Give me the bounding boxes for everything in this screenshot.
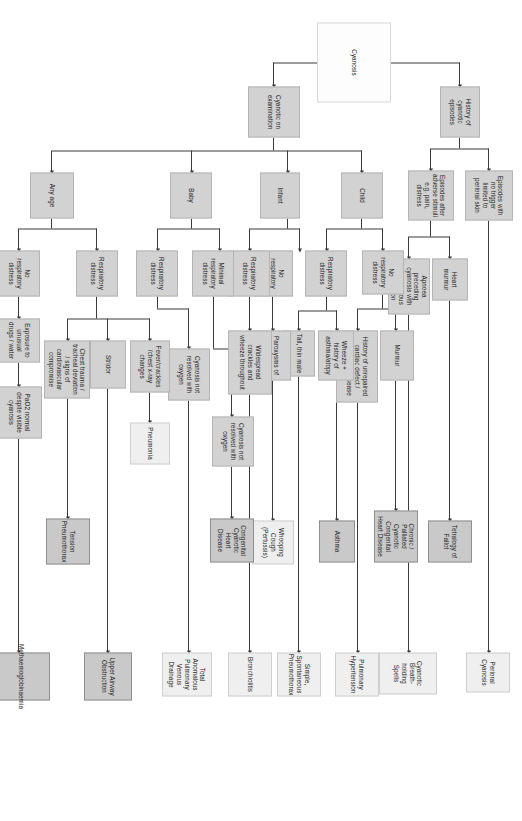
edge (361, 150, 362, 172)
edge (430, 220, 431, 236)
node-exposure-to-unusual-drugs-water[interactable]: Exposure to unusual drugs / water (0, 318, 40, 362)
edge (431, 148, 489, 149)
edge (449, 300, 450, 520)
edge (299, 310, 337, 311)
node-chest-trauma-tracheal-deviation[interactable]: Chest trauma / tracheal deviation / sign… (44, 340, 90, 398)
edge (326, 296, 327, 310)
node-outcome-upper-airway-obstruction[interactable]: Upper Airway Obstruction (84, 652, 132, 700)
node-outcome-pneumonia[interactable]: Pneumonia (130, 422, 170, 464)
edge (272, 380, 273, 520)
edge (382, 294, 383, 308)
edge (107, 318, 108, 340)
node-outcome-total-anomalous-pulmonary-venous-drainage[interactable]: Total Anomalous Pulmonary Venous Drainag… (162, 652, 212, 696)
edge (272, 296, 273, 330)
edge (96, 296, 97, 318)
edge (287, 218, 288, 228)
edge (336, 310, 337, 330)
flowchart-canvas: Cyanosis History of cyanotic episodes Cy… (0, 0, 522, 821)
edge (18, 438, 19, 652)
edge (51, 150, 52, 172)
node-widespread-crackles-and-wheeze[interactable]: Widespread crackles and wheeze throughou… (228, 330, 272, 394)
edge (149, 392, 150, 422)
edge (96, 228, 97, 250)
edge (158, 228, 220, 229)
node-anyage-respiratory-distress[interactable]: Respiratory distress (76, 250, 118, 296)
node-outcome-tetralogy-of-fallot[interactable]: Tetralogy of Fallot (428, 520, 472, 562)
diagram-canvas-frame: Cyanosis History of cyanotic episodes Cy… (0, 0, 522, 821)
node-baby-respiratory-distress[interactable]: Respiratory distress (136, 250, 178, 296)
arrow-head (299, 248, 303, 252)
node-wheeze-history-asthma-atopy[interactable]: Wheeze + history of asthma/atopy (318, 330, 354, 380)
edge (52, 150, 362, 151)
node-child-respiratory-distress[interactable]: Respiratory distress (305, 250, 347, 296)
edge (298, 376, 299, 652)
node-outcome-methaemoglobinaemia[interactable]: Methaemoglobinaemia (0, 652, 50, 700)
edge (19, 228, 97, 229)
edge (107, 388, 108, 652)
node-cyanosis-not-resolved-with-oxygen-infant[interactable]: Cyanosis not resolved with oxygen (212, 416, 254, 466)
edge (67, 398, 68, 518)
node-episodes-with-no-trigger[interactable]: Episodes with no trigger limited to peri… (465, 170, 513, 220)
edge (408, 236, 409, 258)
edge (449, 236, 450, 258)
edge (18, 296, 19, 318)
edge (188, 400, 189, 652)
edge (157, 228, 158, 250)
node-outcome-chronic-palliated-cyanotic-chd[interactable]: Chronic / Palliated Cyanotic Congenital … (374, 510, 418, 562)
edge (287, 150, 288, 172)
edge (273, 137, 274, 150)
node-fever-crackles-chest-xray-changes[interactable]: Fever/crackles /chest x-ray changes (130, 340, 170, 392)
node-child[interactable]: Child (341, 172, 383, 218)
node-outcome-tension-pneumothorax[interactable]: Tension Pneumothorax (46, 518, 90, 564)
node-history-of-cyanotic-episodes[interactable]: History of cyanotic episodes (440, 86, 480, 137)
edge (149, 318, 150, 340)
node-outcome-asthma[interactable]: Asthma (319, 520, 355, 562)
edge (231, 466, 232, 518)
edge (299, 228, 300, 250)
edge (326, 228, 327, 250)
node-root-cyanosis[interactable]: Cyanosis (317, 22, 391, 102)
node-murmur[interactable]: Murmur (380, 330, 414, 380)
edge (68, 318, 150, 319)
node-any-age[interactable]: Any age (30, 172, 74, 218)
node-infant-respiratory-distress[interactable]: Respiratory distress (228, 250, 270, 296)
node-cyanotic-on-examination[interactable]: Cyanotic on examination (248, 86, 300, 137)
edge (191, 150, 192, 172)
node-outcome-cyanotic-breath-holding-spells[interactable]: Cyanotic Breath-holding Spells (379, 652, 437, 694)
node-child-no-respiratory-distress[interactable]: No respiratory distress (362, 250, 404, 294)
edge (250, 228, 300, 229)
edge (395, 380, 396, 510)
node-baby[interactable]: Baby (170, 172, 212, 218)
edge (67, 318, 68, 340)
edge (459, 62, 460, 86)
edge (430, 148, 431, 170)
node-heart-murmur[interactable]: Heart murmur (432, 258, 468, 300)
node-outcome-bronchiolitis[interactable]: Bronchiolitis (228, 652, 272, 696)
edge (298, 310, 299, 330)
edge (188, 308, 189, 348)
node-episodes-after-adverse-stimuli[interactable]: Episodes after adverse stimuli e.g. pain… (408, 170, 454, 220)
node-outcome-congenital-cyanotic-heart-disease[interactable]: Congenital Cyanotic Heart Disease (210, 518, 254, 562)
edge (191, 218, 192, 228)
edge (488, 148, 489, 170)
node-baby-minimal-respiratory-distress[interactable]: Minimal respiratory distress (192, 250, 234, 296)
edge (18, 228, 19, 250)
edge (361, 218, 362, 228)
node-stridor[interactable]: Stridor (90, 340, 126, 388)
edge (273, 62, 274, 86)
node-anyage-no-respiratory-distress[interactable]: No respiratory distress (0, 250, 40, 296)
edge (213, 296, 214, 348)
node-pao2-normal-despite-visible-cyanosis[interactable]: PaO2 normal despite visible cyanosis (0, 386, 42, 438)
node-outcome-whooping-cough-pertussis[interactable]: Whooping Cough (Pertussis) (252, 520, 294, 564)
edge (157, 308, 189, 309)
node-outcome-simple-spontaneous-pneumothorax[interactable]: Simple, Spontaneous Pneumothorax (277, 652, 321, 696)
node-infant[interactable]: Infant (260, 172, 300, 218)
edge (327, 228, 383, 229)
node-outcome-pulmonary-hypertension[interactable]: Pulmonary Hypertension (335, 652, 379, 696)
node-outcome-perioral-cyanosis[interactable]: Perioral Cyanosis (466, 652, 510, 692)
edge (18, 362, 19, 386)
edge (382, 228, 383, 250)
edge (219, 228, 220, 250)
node-cyanosis-not-resolved-with-oxygen-baby[interactable]: Cyanosis not resolved with oxygen (168, 348, 210, 400)
edge (357, 402, 358, 652)
